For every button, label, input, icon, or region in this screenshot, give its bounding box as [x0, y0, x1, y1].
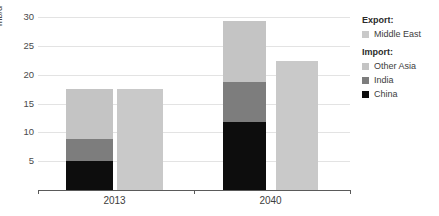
x-axis-label-2040: 2040	[223, 195, 318, 206]
bar-segment-middle-east	[276, 61, 318, 190]
y-axis-tick-label: 20	[4, 70, 34, 80]
plot-bars	[38, 17, 350, 190]
legend-swatch-icon	[362, 91, 369, 98]
legend-item-label: Middle East	[374, 30, 421, 39]
bar-segment-india	[223, 82, 266, 122]
y-axis-tick-label: 10	[4, 127, 34, 137]
y-axis-tick-label: 5	[4, 156, 34, 166]
x-axis-tick-end	[350, 190, 351, 194]
legend-item-other-asia[interactable]: Other Asia	[362, 62, 439, 71]
x-axis-label-2013: 2013	[66, 195, 163, 206]
legend: Export: Middle East Import: Other AsiaIn…	[362, 16, 439, 108]
bar-2040-import	[223, 21, 266, 190]
y-axis-tick-label: 25	[4, 41, 34, 51]
bar-2040-export	[276, 61, 318, 190]
legend-group-import: Import: Other AsiaIndiaChina	[362, 48, 439, 99]
x-axis-tick-mid	[194, 190, 195, 194]
legend-swatch-icon	[362, 63, 369, 70]
bar-segment-middle-east	[117, 89, 163, 190]
legend-item-label: Other Asia	[374, 62, 416, 71]
bar-segment-other-asia	[223, 21, 266, 82]
x-axis-tick-start	[38, 190, 39, 194]
legend-group-export: Export: Middle East	[362, 16, 439, 39]
legend-item-middle-east[interactable]: Middle East	[362, 30, 439, 39]
legend-item-china[interactable]: China	[362, 90, 439, 99]
bar-2013-export	[117, 89, 163, 190]
legend-item-label: China	[374, 90, 398, 99]
y-axis-ticks: 51015202530	[0, 0, 34, 216]
legend-swatch-icon	[362, 77, 369, 84]
legend-heading-import: Import:	[362, 48, 439, 57]
bar-segment-other-asia	[66, 89, 113, 139]
legend-item-label: India	[374, 76, 394, 85]
bar-2013-import	[66, 89, 113, 190]
bar-segment-india	[66, 139, 113, 161]
y-axis-tick-label: 15	[4, 99, 34, 109]
legend-heading-export: Export:	[362, 16, 439, 25]
legend-item-india[interactable]: India	[362, 76, 439, 85]
legend-swatch-icon	[362, 31, 369, 38]
bar-segment-china	[66, 161, 113, 190]
bar-chart: mb/d 51015202530 20132040 Export: Middle…	[0, 0, 439, 216]
bar-segment-china	[223, 122, 266, 190]
y-axis-tick-label: 30	[4, 12, 34, 22]
